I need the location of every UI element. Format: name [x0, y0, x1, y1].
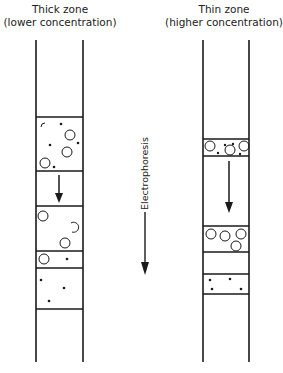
- electrophoresis-label: Electrophoresis: [139, 137, 150, 210]
- right-sample-zone-particles: [205, 141, 249, 155]
- right-migration-arrow-icon: [225, 161, 233, 213]
- left-large-particle-zone: [38, 211, 79, 264]
- left-sample-zone-particles: [40, 123, 75, 168]
- right-tube: [203, 40, 249, 362]
- right-large-particle-zone: [206, 229, 246, 251]
- right-small-particle-dots: [209, 278, 243, 291]
- left-sample-zone-dots: [49, 123, 80, 169]
- left-migration-arrow-icon: [55, 175, 63, 203]
- electrophoresis-direction-arrow-icon: [141, 212, 149, 275]
